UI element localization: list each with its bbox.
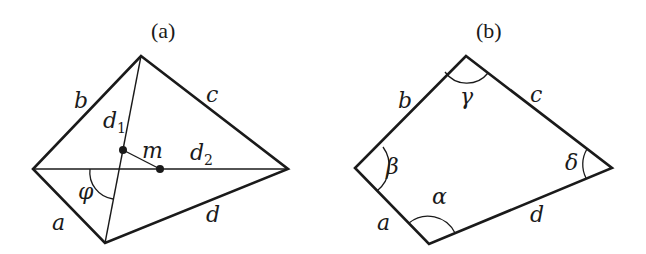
segment-m-label: m <box>142 138 163 163</box>
figure-b-title: (b) <box>476 18 502 43</box>
midpoint-d2-dot <box>156 165 164 173</box>
angle-gamma-label: γ <box>460 84 474 109</box>
angle-delta-label: δ <box>565 150 578 175</box>
angle-gamma-arc <box>445 72 488 83</box>
side-a-label: a <box>52 210 65 235</box>
angle-alpha-label: α <box>432 184 447 209</box>
angle-delta-arc <box>583 149 587 178</box>
side-d-label: d <box>206 202 220 227</box>
side-a-label: a <box>377 210 390 235</box>
side-b-label: b <box>74 88 88 113</box>
side-c-label: c <box>206 82 218 107</box>
angle-phi-label: φ <box>78 179 94 204</box>
diagonal-d2-label: d2 <box>190 140 213 168</box>
quadrilateral-figures: (a) b c a d d1 d2 m φ (b) b c a d γ β α … <box>0 0 646 254</box>
figure-a: (a) b c a d d1 d2 m φ <box>33 18 288 243</box>
midpoint-d1-dot <box>119 146 127 154</box>
diagonal-d1-label: d1 <box>103 108 126 136</box>
angle-beta-label: β <box>385 154 399 179</box>
side-c-label: c <box>530 82 542 107</box>
side-b-label: b <box>398 88 412 113</box>
figure-b: (b) b c a d γ β α δ <box>355 18 612 244</box>
side-d-label: d <box>530 202 544 227</box>
figure-a-title: (a) <box>151 18 175 43</box>
